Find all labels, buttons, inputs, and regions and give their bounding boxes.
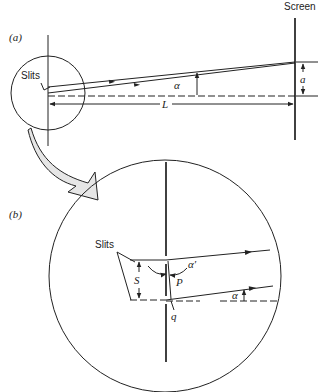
- panel-a: (a) Slits α L Screen a: [9, 1, 318, 146]
- angle-arc-left: [148, 266, 166, 274]
- panel-b-label: (b): [9, 208, 22, 221]
- point-p-label: P: [175, 276, 183, 288]
- angle-arc-right: [170, 268, 187, 275]
- alpha-label-a: α: [174, 79, 180, 91]
- slits-label-b: Slits: [95, 239, 114, 250]
- panel-a-label: (a): [9, 31, 22, 44]
- ray-lower-a: [48, 63, 295, 93]
- double-slit-diagram: (a) Slits α L Screen a (b): [0, 0, 318, 392]
- screen-label: Screen: [284, 1, 316, 12]
- ray-lower-b: [166, 286, 273, 300]
- panel-b: (b) Slits S α′ P q: [9, 160, 281, 392]
- slits-pointer-b: [117, 252, 135, 300]
- ray-arrow-b1: [245, 249, 252, 255]
- ray-upper-b: [166, 250, 270, 260]
- offset-label: a: [300, 73, 306, 85]
- point-q-label: q: [171, 310, 177, 322]
- q-pointer: [171, 301, 174, 310]
- alpha-prime-label: α′: [188, 258, 197, 270]
- path-difference-line: [168, 261, 171, 299]
- alpha-label-b: α: [232, 289, 238, 301]
- slits-label-a: Slits: [21, 70, 40, 81]
- separation-label: S: [134, 274, 140, 286]
- distance-label: L: [161, 98, 168, 110]
- ray-upper-a: [48, 62, 295, 87]
